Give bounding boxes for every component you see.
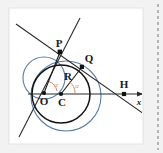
figure-root: P Q O C H R α α x — [0, 0, 163, 153]
geometry-diagram: P Q O C H R α α x — [0, 0, 163, 153]
label-alpha-right: α — [75, 82, 79, 90]
label-H: H — [120, 78, 129, 90]
label-O: O — [40, 95, 49, 107]
label-Q: Q — [85, 52, 94, 64]
label-P: P — [56, 37, 63, 49]
label-x-axis: x — [136, 97, 142, 107]
point-H-marker — [122, 92, 126, 96]
point-P-marker — [58, 50, 62, 54]
label-C: C — [58, 96, 66, 108]
figure-card — [9, 8, 143, 144]
point-Q-marker — [80, 65, 84, 69]
label-R: R — [64, 70, 73, 82]
label-alpha-left: α — [54, 81, 58, 89]
